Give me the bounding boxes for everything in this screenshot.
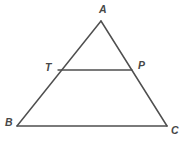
vertex-label-a: A (99, 4, 107, 15)
vertex-label-c: C (171, 125, 179, 136)
vertex-label-t: T (45, 62, 51, 73)
segment-ac (101, 21, 167, 126)
segment-ab (17, 21, 101, 126)
vertex-label-p: P (138, 60, 145, 71)
triangle-diagram-canvas (0, 0, 187, 143)
geometry-figure: A B C T P (0, 0, 187, 143)
vertex-label-b: B (5, 117, 13, 128)
